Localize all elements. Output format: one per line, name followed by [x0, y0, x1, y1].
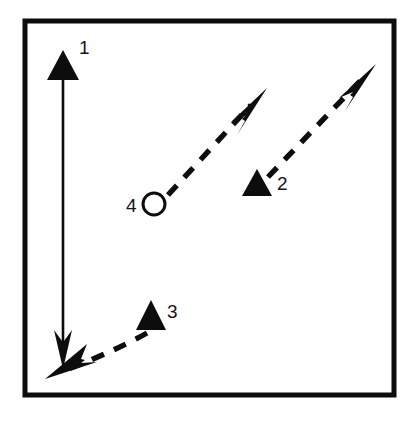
vector-label-2: 2: [277, 173, 288, 194]
vector-4-barbed-head: [231, 88, 267, 135]
vector-2-group: [242, 64, 376, 196]
vector-2-barbed-head: [339, 64, 376, 111]
vector-label-1: 1: [79, 37, 90, 58]
outer-border-rectangle: [25, 21, 394, 395]
vector-1-triangle-head-up: [47, 50, 79, 80]
vector-3-barbed-head: [45, 344, 97, 379]
marker-label-4: 4: [126, 195, 137, 216]
figure-canvas: 1 2 3 4: [0, 0, 419, 425]
vector-label-3: 3: [167, 301, 178, 322]
open-circle-marker: [143, 193, 165, 215]
vector-2-triangle-marker: [242, 169, 272, 196]
vector-1-group: [47, 50, 79, 369]
vector-diagram: 1 2 3 4: [0, 0, 419, 425]
vector-3-triangle-marker: [136, 300, 166, 330]
